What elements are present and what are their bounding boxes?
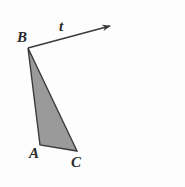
ray-label-t: t: [59, 19, 63, 34]
figure-canvas: [0, 0, 185, 187]
ray-t-line: [28, 26, 110, 48]
vertex-label-a: A: [29, 146, 39, 161]
geometry-figure: B A C t: [0, 0, 185, 187]
triangle-abc: [28, 48, 77, 151]
vertex-label-b: B: [17, 30, 27, 45]
vertex-label-c: C: [71, 155, 81, 170]
